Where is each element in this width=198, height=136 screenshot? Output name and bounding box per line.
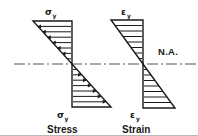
stress-bottom-subscript: y: [65, 115, 69, 123]
strain-bottom-symbol: ε: [130, 110, 135, 120]
stress-bottom-symbol: σ: [57, 110, 64, 120]
strain-caption: Strain: [122, 124, 150, 135]
strain-top-subscript: y: [127, 12, 131, 20]
neutral-axis-label: N.A.: [158, 46, 178, 57]
strain-top-symbol: ε: [121, 7, 126, 17]
stress-caption: Stress: [47, 124, 78, 135]
strain-bottom-subscript: y: [136, 115, 140, 123]
stress-top-symbol: σ: [45, 7, 52, 17]
figure-background: [0, 0, 198, 136]
figure-canvas: N.A.: [0, 0, 198, 136]
stress-strain-figure: N.A.: [0, 0, 198, 136]
stress-top-subscript: y: [53, 12, 57, 20]
